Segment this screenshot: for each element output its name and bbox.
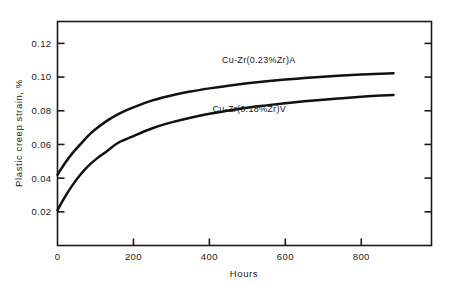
series-curve-1	[58, 73, 394, 175]
y-tick-label: 0.06	[31, 139, 51, 150]
y-axis-ticks-right	[425, 43, 432, 211]
y-axis-ticks-left	[58, 43, 65, 211]
x-tick-label: 0	[55, 251, 61, 262]
x-tick-label: 400	[201, 251, 218, 262]
x-axis-title: Hours	[230, 268, 258, 279]
x-tick-label: 200	[125, 251, 142, 262]
y-tick-label: 0.08	[31, 105, 51, 116]
chart-figure: 0.020.040.060.080.100.12 0200400600800 C…	[0, 0, 451, 285]
creep-strain-chart: 0.020.040.060.080.100.12 0200400600800 C…	[0, 0, 451, 285]
y-axis-title: Plastic creep strain, %	[13, 79, 24, 187]
series-inline-labels: Cu-Zr(0.23%Zr)ACu-Zr(0.18%Zr)V	[212, 55, 295, 114]
x-axis-tick-labels: 0200400600800	[55, 251, 370, 262]
x-axis-ticks	[133, 239, 361, 246]
x-tick-label: 800	[353, 251, 370, 262]
y-tick-label: 0.12	[31, 38, 51, 49]
y-tick-label: 0.02	[31, 206, 51, 217]
data-series-group	[58, 73, 394, 210]
y-tick-label: 0.10	[31, 71, 51, 82]
x-tick-label: 600	[277, 251, 294, 262]
series-label-1: Cu-Zr(0.23%Zr)A	[222, 55, 296, 65]
series-label-2: Cu-Zr(0.18%Zr)V	[212, 104, 286, 114]
y-axis-tick-labels: 0.020.040.060.080.100.12	[31, 38, 51, 217]
y-tick-label: 0.04	[31, 173, 51, 184]
